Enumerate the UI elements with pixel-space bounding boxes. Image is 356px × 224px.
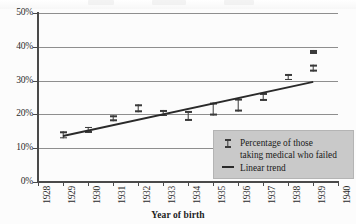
data-point-marker [135,105,142,112]
x-tick-label: 1935 [217,186,227,204]
x-tick-mark [63,182,64,186]
x-tick-label: 1938 [292,186,302,204]
x-tick-mark [113,182,114,186]
x-tick-mark [138,182,139,186]
gridline-y [38,13,338,14]
y-axis-line [37,12,39,183]
x-tick-label: 1929 [67,186,77,204]
y-tick-label: 10% [0,142,33,152]
x-tick-label: 1933 [167,186,177,204]
legend-key-trend-line [221,161,235,171]
y-tick-label: 0% [0,176,33,186]
x-tick-label: 1934 [192,186,202,204]
legend-label-series-line1: Percentage of those [240,138,313,148]
gridline-y [38,81,338,82]
x-tick-label: 1937 [267,186,277,204]
y-tick-label: 30% [0,75,33,85]
x-tick-mark [288,182,289,186]
x-tick-mark [238,182,239,186]
y-tick-label: 20% [0,108,33,118]
data-point-marker [110,116,117,121]
chart-figure: 0%10%20%30%40%50% 1928192919301931193219… [0,0,356,224]
x-tick-label: 1932 [142,186,152,204]
data-point-marker [235,99,242,112]
x-tick-mark [163,182,164,186]
x-tick-mark [213,182,214,186]
x-tick-label: 1928 [42,186,52,204]
gridline-y [38,47,338,48]
x-tick-mark [313,182,314,186]
data-point-marker [185,111,192,121]
x-tick-mark [188,182,189,186]
x-tick-label: 1940 [342,186,352,204]
x-tick-mark [338,182,339,186]
x-tick-label: 1936 [242,186,252,204]
legend-label-trend: Linear trend [240,163,286,173]
legend-key-error-bar [221,138,235,148]
legend-label-series-line2: taking medical who failed [240,150,337,160]
y-tick-label: 50% [0,7,33,17]
data-point-marker [285,74,292,80]
y-tick-label: 40% [0,41,33,51]
x-tick-label: 1931 [117,186,127,204]
x-tick-mark [38,182,39,186]
x-tick-mark [88,182,89,186]
data-point-marker [310,65,317,72]
x-tick-label: 1930 [92,186,102,204]
chart-legend: Percentage of those taking medical who f… [213,130,354,179]
x-axis-title: Year of birth [0,210,356,220]
data-point-marker [310,50,317,54]
cropped-title-strip [0,0,356,9]
x-tick-label: 1939 [317,186,327,204]
x-tick-mark [263,182,264,186]
